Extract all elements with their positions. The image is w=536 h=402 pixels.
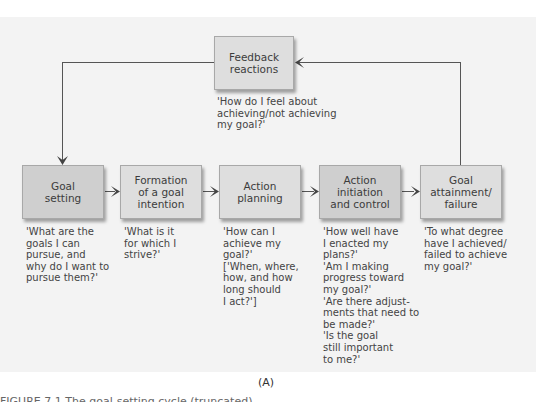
node-feedback-reactions: Feedback reactions [214,36,294,90]
node-question-feedback: 'How do I feel about achieving/not achie… [217,96,336,131]
node-label: Formation of a goal intention [135,174,188,210]
connector-feedback-right-vertical [460,62,461,165]
node-label: Goal setting [45,180,81,204]
figure-caption-truncated: FIGURE 7.1 The goal-setting cycle (trunc… [0,396,536,402]
node-label: Action initiation and control [330,174,390,210]
connector-feedback-left-horizontal [62,62,214,63]
connector-feedback-right-horizontal [298,62,460,63]
node-label: Goal attainment/ failure [430,174,492,210]
node-question-formation: 'What is it for which I strive?' [124,226,176,261]
arrow-head-left-icon [295,57,305,69]
connector-feedback-left-vertical [62,62,63,162]
node-question-action-initiation: 'How well have I enacted my plans?' 'Am … [323,226,419,365]
node-action-planning: Action planning [219,165,301,219]
node-goal-setting: Goal setting [22,165,104,219]
node-label: Feedback reactions [229,51,279,75]
node-question-action-planning: 'How can I achieve my goal?' ['When, whe… [223,226,299,307]
node-action-initiation-and-control: Action initiation and control [319,165,401,219]
node-question-goal-attainment: 'To what degree have I achieved/ failed … [424,226,507,272]
node-question-goal-setting: 'What are the goals I can pursue, and wh… [26,226,109,284]
node-label: Action planning [237,180,283,204]
node-formation-of-goal-intention: Formation of a goal intention [120,165,202,219]
panel-label: (A) [258,376,274,389]
node-goal-attainment-failure: Goal attainment/ failure [420,165,502,219]
